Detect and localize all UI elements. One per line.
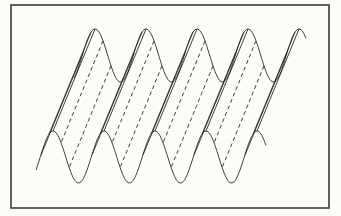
bottom-sine-curve xyxy=(36,131,266,183)
solid-ruling-lines xyxy=(41,29,299,155)
ruling-line xyxy=(155,29,197,131)
top-sine-curve xyxy=(74,29,306,82)
ruling-line xyxy=(104,29,146,131)
ruling-line xyxy=(171,66,213,168)
sheared-sine-surface-diagram xyxy=(0,0,341,216)
ruling-line xyxy=(257,29,299,131)
ruling-line xyxy=(53,29,95,131)
ruling-line xyxy=(120,66,162,168)
ruling-line xyxy=(245,53,287,155)
ruling-line xyxy=(69,66,111,168)
ruling-line xyxy=(222,66,264,168)
ruling-line xyxy=(206,29,248,131)
figure-frame xyxy=(11,5,329,208)
